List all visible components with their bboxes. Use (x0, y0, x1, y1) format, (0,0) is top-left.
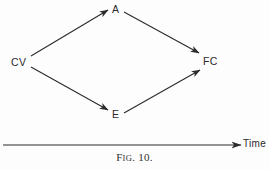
edge-cv-to-e (31, 67, 108, 110)
node-label-a: A (112, 4, 119, 15)
edge-cv-to-a (31, 10, 108, 56)
caption-smallcaps: IG (123, 153, 133, 163)
node-label-fc: FC (203, 56, 218, 67)
figure-caption: FIG. 10. (0, 152, 269, 163)
caption-suffix: . 10. (132, 151, 153, 163)
node-label-e: E (112, 109, 119, 120)
edge-e-to-fc (124, 70, 200, 113)
node-label-cv: CV (11, 57, 26, 68)
time-axis-label: Time (243, 139, 266, 149)
diagram-canvas (0, 0, 269, 170)
edge-a-to-fc (124, 12, 199, 53)
figure-container: CV A E FC Time FIG. 10. (0, 0, 269, 170)
